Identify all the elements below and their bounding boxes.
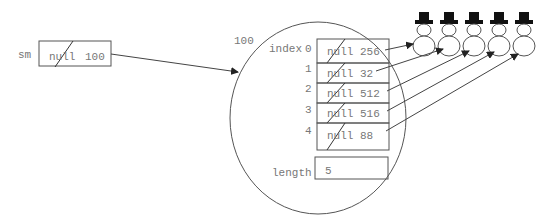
slot-index: 3 [305,104,312,116]
slot-index: 2 [305,83,312,95]
slot-index: 0 [305,43,312,55]
snowman-icon [413,12,435,56]
array-slot-1: 1 null 32 [305,63,389,83]
reference-arrow [111,54,238,72]
object-address: 100 [234,35,254,47]
variable-name: sm [18,49,32,61]
length-value: 5 [325,165,332,177]
variable-sm: sm null 100 [18,41,111,67]
variable-null: null [49,51,75,63]
slot-null: null [327,108,353,120]
slot-ref: 256 [360,46,380,58]
array-slot-4: 4 null 88 [305,123,389,150]
slot-ref: 88 [360,130,373,142]
snowman-icon [488,12,510,56]
length-label: length [272,167,312,179]
array-slot-2: 2 null 512 [305,83,389,103]
index-label: index [269,43,302,55]
memory-diagram: sm null 100 100 index 0 null 256 1 null … [0,0,553,215]
slot-arrows [376,44,518,131]
snowman-icon [463,12,485,56]
slot-null: null [327,46,353,58]
slot-ref: 32 [360,68,373,80]
slot-ref: 516 [360,108,380,120]
snowman-objects [413,12,535,56]
array-object: 100 index 0 null 256 1 null 32 2 null 51… [230,22,406,214]
array-slot-0: 0 null 256 [305,39,389,63]
slot-null: null [327,88,353,100]
slot-index: 1 [305,63,312,75]
slot-ref: 512 [360,88,380,100]
snowman-icon [513,12,535,56]
slot-null: null [327,68,353,80]
variable-ref: 100 [85,51,105,63]
slot-null: null [327,130,353,142]
slot-index: 4 [305,125,312,137]
array-slot-3: 3 null 516 [305,103,389,123]
